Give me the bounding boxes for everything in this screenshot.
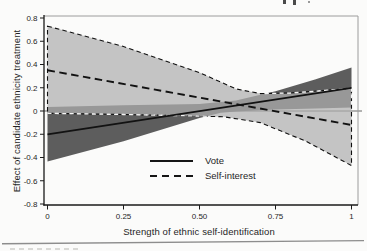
y-tick-label: 0.6 bbox=[26, 37, 38, 46]
y-tick-label: -0.6 bbox=[24, 177, 38, 186]
x-axis-title: Strength of ethnic self-identification bbox=[123, 226, 275, 237]
y-tick-label: -0.4 bbox=[24, 153, 38, 162]
y-tick-label: -0.8 bbox=[24, 200, 38, 209]
legend-label-vote: Vote bbox=[205, 155, 224, 166]
x-tick-label: 0.75 bbox=[268, 212, 284, 221]
x-tick-label: 1 bbox=[349, 212, 354, 221]
legend-item-vote: Vote bbox=[150, 153, 256, 168]
x-tick-label: 0 bbox=[45, 212, 50, 221]
solid-line-sample bbox=[150, 160, 193, 162]
cropped-text-artifact bbox=[10, 248, 82, 250]
y-tick-label: 0.8 bbox=[26, 14, 38, 23]
legend-label-self-interest: Self-interest bbox=[205, 170, 256, 181]
y-tick-label: 0 bbox=[33, 107, 38, 116]
chart-canvas: 0.80.60.40.20-0.2-0.4-0.6-0.800.250.500.… bbox=[0, 0, 367, 251]
bottom-rule bbox=[2, 241, 364, 244]
legend-item-self-interest: Self-interest bbox=[150, 168, 256, 183]
y-tick-label: 0.2 bbox=[26, 84, 38, 93]
y-tick-label: 0.4 bbox=[26, 60, 38, 69]
dashed-line-sample bbox=[150, 175, 193, 177]
x-tick-label: 0.50 bbox=[192, 212, 208, 221]
y-axis-title: Effect of candidate ethnicity treatment bbox=[11, 30, 22, 193]
figure-container: 0.80.60.40.20-0.2-0.4-0.6-0.800.250.500.… bbox=[0, 0, 367, 251]
x-tick-label: 0.25 bbox=[116, 212, 132, 221]
legend: Vote Self-interest bbox=[150, 153, 256, 183]
y-tick-label: -0.2 bbox=[24, 130, 38, 139]
